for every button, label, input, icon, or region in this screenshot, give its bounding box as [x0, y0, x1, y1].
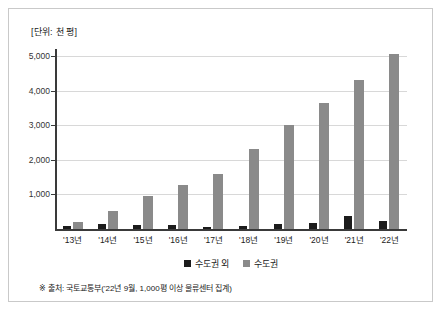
bar-capital	[354, 80, 364, 229]
y-tick-label: 1,000	[29, 189, 50, 199]
bar-series-container	[55, 49, 407, 229]
x-axis-label: '15년	[125, 233, 160, 245]
bar-group	[266, 49, 301, 229]
bar-capital	[143, 196, 153, 229]
y-tick-label: 4,000	[29, 86, 50, 96]
y-tick-label: 5,000	[29, 51, 50, 61]
bar-non-capital	[344, 216, 352, 230]
x-axis-label: '20년	[301, 233, 336, 245]
bar-group	[55, 49, 90, 229]
bar-group	[125, 49, 160, 229]
x-axis-label: '22년	[372, 233, 407, 245]
bar-group	[90, 49, 125, 229]
bar-group	[231, 49, 266, 229]
legend-label: 수도권 외	[195, 257, 230, 270]
bar-capital	[389, 54, 399, 229]
bar-capital	[249, 149, 259, 229]
legend-item: 수도권	[243, 257, 278, 270]
bar-capital	[108, 211, 118, 229]
x-axis-labels: '13년'14년'15년'16년'17년'18년'19년'20년'21년'22년	[55, 233, 407, 245]
source-note: ※ 출처: 국토교통부('22년 9월, 1,000평 이상 물류센터 집계)	[39, 282, 232, 293]
x-axis-label: '18년	[231, 233, 266, 245]
bar-group	[301, 49, 336, 229]
bar-capital	[319, 103, 329, 229]
y-axis-line	[55, 49, 57, 231]
legend-swatch-icon	[243, 260, 250, 267]
x-axis-label: '17년	[196, 233, 231, 245]
legend-item: 수도권 외	[184, 257, 230, 270]
bar-group	[196, 49, 231, 229]
y-tick-label: 3,000	[29, 120, 50, 130]
bar-capital	[178, 185, 188, 229]
bar-group	[161, 49, 196, 229]
bar-group	[337, 49, 372, 229]
x-axis-label: '13년	[55, 233, 90, 245]
x-axis-line	[55, 229, 407, 231]
bar-non-capital	[379, 221, 387, 229]
bar-capital	[284, 125, 294, 229]
plot-area: 1,0002,0003,0004,0005,000	[55, 49, 407, 229]
legend-swatch-icon	[184, 260, 191, 267]
x-axis-label: '14년	[90, 233, 125, 245]
x-axis-label: '19년	[266, 233, 301, 245]
unit-label: [단위: 천 평]	[31, 25, 77, 38]
chart-legend: 수도권 외수도권	[55, 257, 407, 270]
x-axis-label: '21년	[337, 233, 372, 245]
bar-capital	[213, 174, 223, 229]
legend-label: 수도권	[254, 257, 278, 270]
bar-group	[372, 49, 407, 229]
chart-frame: [단위: 천 평] 1,0002,0003,0004,0005,000 '13년…	[8, 8, 433, 302]
y-tick-label: 2,000	[29, 155, 50, 165]
x-axis-label: '16년	[161, 233, 196, 245]
